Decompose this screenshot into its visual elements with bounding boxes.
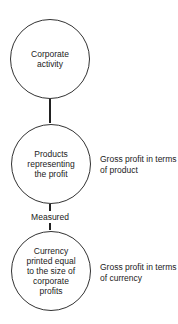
node-label: Corporate activity	[31, 49, 69, 69]
edge-label-measured: Measured	[30, 211, 70, 223]
side-label-gross-profit-product: Gross profit in terms of product	[100, 154, 177, 176]
diagram-canvas: Corporate activity Products representing…	[0, 0, 178, 324]
node-label: Currency printed equal to the size of co…	[26, 246, 75, 296]
node-corporate-activity: Corporate activity	[10, 19, 90, 99]
side-label-gross-profit-currency: Gross profit in terms of currency	[100, 262, 177, 284]
node-currency-printed: Currency printed equal to the size of co…	[11, 231, 91, 311]
node-products-representing-profit: Products representing the profit	[11, 124, 91, 204]
connector-line-1	[49, 99, 51, 123]
node-label: Products representing the profit	[27, 149, 74, 179]
